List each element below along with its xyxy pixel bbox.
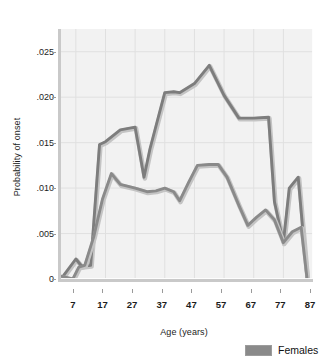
x-axis-tick-label: 17 (97, 299, 108, 310)
chart-plot-svg (61, 29, 313, 279)
x-axis-tick-mark (162, 289, 163, 293)
x-axis-tick-label: 57 (216, 299, 227, 310)
y-axis-tick-label: .005 (18, 229, 54, 239)
x-axis-tick-label: 87 (305, 299, 316, 310)
x-axis-tick-mark (310, 289, 311, 293)
x-axis-tick-label: 7 (70, 299, 75, 310)
x-axis-tick-label: 37 (156, 299, 167, 310)
legend-label-females: Females (278, 344, 318, 356)
y-axis-tick-labels: 0.005.010.015.020.025 (12, 0, 54, 362)
x-axis-tick-mark (102, 289, 103, 293)
x-axis-tick-mark (251, 289, 252, 293)
y-axis-tick-mark (52, 234, 56, 235)
y-axis-tick-label: .010 (18, 183, 54, 193)
y-axis-tick-mark (52, 143, 56, 144)
y-axis-tick-label: .020 (18, 92, 54, 102)
x-axis-tick-label: 67 (245, 299, 256, 310)
y-axis-tick-mark (52, 279, 56, 280)
x-axis-tick-mark (132, 289, 133, 293)
x-axis-tick-mark (221, 289, 222, 293)
plot-area (58, 29, 313, 282)
x-axis-tick-label: 47 (186, 299, 197, 310)
y-axis-tick-label: .025 (18, 47, 54, 57)
legend-swatch-females (245, 345, 272, 356)
y-axis-tick-mark (52, 52, 56, 53)
x-axis-tick-label: 27 (127, 299, 138, 310)
x-axis-tick-mark (73, 289, 74, 293)
y-axis-tick-label: 0 (18, 274, 54, 284)
x-axis-tick-label: 77 (275, 299, 286, 310)
x-axis-tick-mark (280, 289, 281, 293)
x-axis-tick-mark (191, 289, 192, 293)
chart-legend: Females (245, 344, 318, 356)
y-axis-tick-mark (52, 188, 56, 189)
y-axis-tick-mark (52, 97, 56, 98)
y-axis-tick-label: .015 (18, 138, 54, 148)
x-axis-title: Age (years) (58, 327, 310, 337)
chart-container: Probability of onset 0.005.010.015.020.0… (0, 0, 330, 362)
